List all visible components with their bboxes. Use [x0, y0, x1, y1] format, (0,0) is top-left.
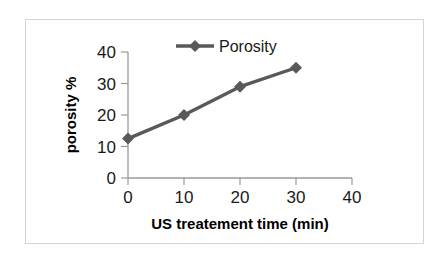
x-tick-label-30: 30 — [287, 188, 306, 207]
data-point-0 — [122, 133, 134, 145]
y-axis-title: porosity % — [62, 77, 79, 154]
x-tick-label-20: 20 — [231, 188, 250, 207]
y-tick-label-40: 40 — [97, 43, 116, 62]
y-tick-label-0: 0 — [107, 169, 116, 188]
legend-marker-diamond-icon — [189, 40, 201, 52]
x-tick-label-10: 10 — [175, 188, 194, 207]
chart-legend: Porosity — [176, 38, 277, 55]
x-tick-label-40: 40 — [343, 188, 362, 207]
y-tick-label-30: 30 — [97, 75, 116, 94]
chart-figure: 0 10 20 30 40 0 10 20 30 40 US treatemen… — [0, 0, 448, 264]
porosity-line-chart: 0 10 20 30 40 0 10 20 30 40 US treatemen… — [0, 0, 448, 264]
y-tick-label-20: 20 — [97, 106, 116, 125]
data-point-1 — [178, 109, 190, 121]
data-point-2 — [234, 81, 246, 93]
x-tick-label-0: 0 — [123, 188, 132, 207]
data-point-3 — [290, 62, 302, 74]
series-line-porosity — [128, 68, 296, 139]
legend-label-porosity: Porosity — [219, 38, 277, 55]
x-axis-title: US treatement time (min) — [151, 215, 329, 232]
y-tick-label-10: 10 — [97, 138, 116, 157]
